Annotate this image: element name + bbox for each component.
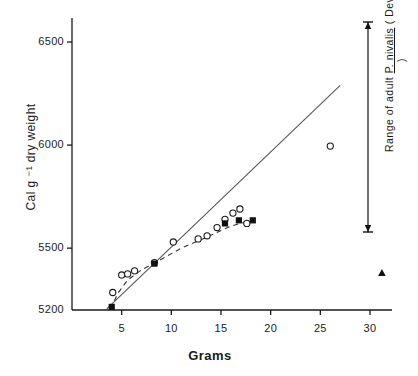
data-point-filled-square (109, 304, 115, 310)
range-annotation-label: Range of adult P. nivalis ( Devon Is. ) (383, 0, 407, 155)
data-point-filled-square (222, 220, 228, 226)
x-axis-tick-label: 5 (102, 322, 142, 334)
data-point-open-circle (131, 268, 137, 274)
solid-regression-line (107, 85, 340, 309)
range-bar-top-arrowhead (365, 22, 371, 29)
data-points-group (109, 143, 386, 310)
data-point-open-circle (195, 236, 201, 242)
x-axis-tick-label: 15 (201, 322, 241, 334)
y-axis-tick-label: 6000 (14, 138, 64, 150)
data-point-filled-triangle (378, 269, 386, 276)
axes-group (67, 18, 392, 315)
annotations-group (363, 22, 373, 232)
data-point-open-circle (327, 143, 333, 149)
y-axis-tick-label: 6500 (14, 35, 64, 47)
y-axis-tick-label: 5500 (14, 241, 64, 253)
x-axis-tick-label: 10 (151, 322, 191, 334)
data-point-filled-square (236, 217, 242, 223)
data-point-open-circle (170, 239, 176, 245)
data-point-open-circle (119, 272, 125, 278)
data-point-filled-square (250, 217, 256, 223)
data-point-open-circle (244, 220, 250, 226)
dashed-fit-curve (111, 220, 254, 309)
x-axis-tick-label: 30 (350, 322, 390, 334)
x-axis-label: Grams (150, 348, 270, 363)
fit-lines-group (107, 85, 340, 309)
data-point-open-circle (230, 210, 236, 216)
data-point-open-circle (110, 289, 116, 295)
range-bar-bottom-arrowhead (365, 225, 371, 232)
y-axis-label: Cal g ⁻¹ dry weight (24, 82, 38, 232)
data-point-open-circle (204, 233, 210, 239)
data-point-filled-square (151, 261, 157, 267)
data-point-open-circle (125, 271, 131, 277)
range-annotation-species: P. nivalis (383, 28, 395, 74)
scatter-plot-canvas (0, 0, 418, 376)
x-axis-tick-label: 25 (300, 322, 340, 334)
data-point-open-circle (237, 206, 243, 212)
data-point-open-circle (214, 224, 220, 230)
y-axis-tick-label: 5200 (14, 303, 64, 315)
range-annotation-prefix: Range of adult (383, 77, 395, 152)
x-axis-tick-label: 20 (251, 322, 291, 334)
